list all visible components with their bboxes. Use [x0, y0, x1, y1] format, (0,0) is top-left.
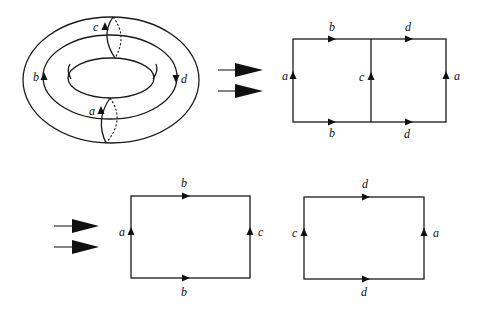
label-right-rect-bottom: d [361, 285, 368, 299]
arrow-up-icon [421, 228, 428, 236]
arrow-right-icon [328, 36, 336, 43]
label-left: a [282, 69, 288, 83]
left-rectangle: b b a c [119, 176, 264, 299]
arrow-right-icon [328, 119, 336, 126]
label-d-torus: d [181, 72, 188, 86]
label-middle: c [359, 70, 365, 84]
combined-rectangle: b d b d a c a [282, 20, 460, 141]
label-bottom-right: d [404, 127, 411, 141]
arrow-right-icon [362, 276, 370, 283]
meridian-a-front [101, 98, 110, 143]
label-top-left: b [329, 20, 335, 34]
label-left-rect-right: c [258, 225, 264, 239]
arrow-right-icon [405, 36, 413, 43]
arrow-right-icon [405, 119, 413, 126]
label-a-torus: a [89, 104, 95, 118]
torus-outer-outline [23, 17, 199, 143]
right-rectangle: d d c a [292, 177, 439, 299]
label-left-rect-top: b [181, 176, 187, 190]
transition-arrow-2 [54, 219, 99, 254]
arrow-up-icon [301, 228, 308, 236]
meridian-a-back [106, 98, 117, 143]
arrow-right-icon [72, 240, 99, 254]
arrow-up-icon [41, 72, 48, 80]
label-b-torus: b [33, 70, 39, 84]
combined-rect-outline [293, 39, 446, 122]
arrow-up-icon [102, 22, 109, 30]
label-c-torus: c [93, 20, 99, 34]
label-top-right: d [405, 20, 412, 34]
left-rect-outline [131, 196, 250, 278]
arrow-up-icon [368, 72, 375, 80]
label-right: a [454, 69, 460, 83]
arrow-down-icon [173, 75, 180, 83]
torus: c a b d [23, 17, 199, 143]
torus-hole-outline [68, 58, 154, 98]
torus-decomposition-diagram: c a b d b d b d a c [0, 0, 481, 316]
arrow-up-icon [443, 71, 450, 79]
arrow-right-icon [235, 84, 263, 98]
arrow-up-icon [290, 71, 297, 79]
arrow-right-icon [235, 63, 263, 77]
label-right-rect-left: c [292, 226, 298, 240]
meridian-c-front [107, 17, 115, 58]
arrow-right-icon [72, 219, 99, 233]
arrow-right-icon [182, 193, 190, 200]
label-left-rect-bottom: b [181, 285, 187, 299]
arrow-up-icon [128, 227, 135, 235]
arrow-right-icon [362, 194, 370, 201]
label-left-rect-left: a [119, 225, 125, 239]
transition-arrow-1 [218, 63, 263, 98]
arrow-up-icon [247, 227, 254, 235]
meridian-c-back [113, 17, 121, 58]
right-rect-outline [304, 197, 424, 279]
arrow-right-icon [182, 275, 190, 282]
label-bottom-left: b [329, 126, 335, 140]
label-right-rect-top: d [362, 177, 369, 191]
label-right-rect-right: a [433, 226, 439, 240]
